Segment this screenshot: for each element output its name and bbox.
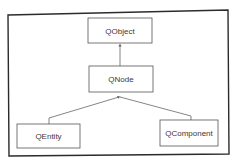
node-qobject-label: QObject (105, 27, 135, 36)
node-qobject: QObject (88, 18, 152, 43)
node-qcomponent: QComponent (160, 120, 218, 146)
node-qnode-label: QNode (108, 75, 134, 84)
node-qnode: QNode (89, 66, 153, 92)
node-qcomponent-label: QComponent (165, 129, 213, 138)
inheritance-diagram: QObject QNode QEntity QComponent (0, 0, 238, 161)
node-qentity-label: QEntity (35, 132, 61, 141)
node-qentity: QEntity (17, 124, 80, 148)
